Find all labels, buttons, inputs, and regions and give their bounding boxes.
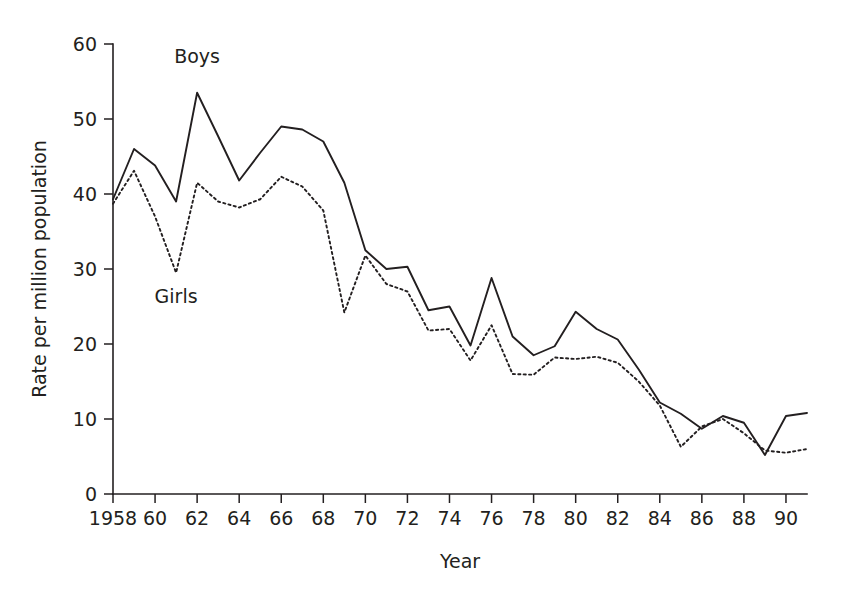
series-line-boys (113, 93, 807, 455)
x-tick-label: 74 (437, 507, 461, 529)
y-tick-label: 0 (85, 483, 97, 505)
y-tick-label: 10 (73, 408, 97, 430)
x-tick-label: 72 (395, 507, 419, 529)
y-tick-label: 30 (73, 258, 97, 280)
x-tick-label: 88 (732, 507, 756, 529)
x-tick-label: 70 (353, 507, 377, 529)
x-tick-label: 66 (269, 507, 293, 529)
x-tick-label: 1958 (89, 507, 137, 529)
x-tick-label: 86 (690, 507, 714, 529)
x-tick-label: 82 (606, 507, 630, 529)
x-tick-label: 68 (311, 507, 335, 529)
series-annotations: BoysGirls (155, 45, 220, 307)
x-axis-ticks: 195860626466687072747678808284868890 (89, 494, 798, 529)
x-tick-label: 90 (774, 507, 798, 529)
y-axis-ticks: 0102030405060 (73, 33, 113, 505)
y-tick-label: 50 (73, 108, 97, 130)
y-axis-title: Rate per million population (28, 140, 50, 398)
series-label-boys: Boys (174, 45, 220, 67)
x-tick-label: 76 (479, 507, 503, 529)
y-tick-label: 40 (73, 183, 97, 205)
x-tick-label: 62 (185, 507, 209, 529)
x-tick-label: 64 (227, 507, 251, 529)
x-tick-label: 80 (564, 507, 588, 529)
chart-series-group (113, 93, 807, 455)
y-tick-label: 20 (73, 333, 97, 355)
x-tick-label: 84 (648, 507, 672, 529)
x-tick-label: 60 (143, 507, 167, 529)
x-tick-label: 78 (522, 507, 546, 529)
series-line-girls (113, 171, 807, 453)
series-label-girls: Girls (155, 285, 198, 307)
y-tick-label: 60 (73, 33, 97, 55)
line-chart: 0102030405060 19586062646668707274767880… (0, 0, 850, 598)
x-axis-title: Year (439, 550, 480, 572)
chart-figure: 0102030405060 19586062646668707274767880… (0, 0, 850, 598)
